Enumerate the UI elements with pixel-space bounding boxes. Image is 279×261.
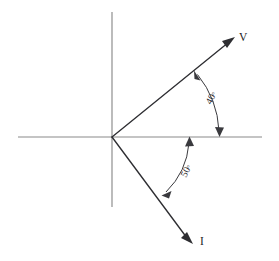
angle-40-group: 40° [194,71,224,138]
angle-50-label: 50° [178,162,194,179]
current-phasor-shaft [112,137,187,238]
voltage-phasor-group: V [112,31,248,137]
angle-50-arc-arrowhead-start [185,137,194,147]
angle-40-arc-arrowhead-end [215,127,224,137]
voltage-phasor-shaft [112,42,229,137]
current-phasor-arrowhead [181,232,193,244]
angle-40-arc-arrowhead-start [194,71,201,81]
angle-50-group: 50° [162,137,195,199]
angle-40-label: 40° [203,89,219,106]
current-phasor-label: I [200,235,204,247]
current-phasor-group: I [112,137,204,247]
phasor-diagram-canvas: V I 40° 50° [0,0,279,261]
phasor-diagram-figure: V I 40° 50° [0,0,279,261]
voltage-phasor-label: V [239,31,248,43]
